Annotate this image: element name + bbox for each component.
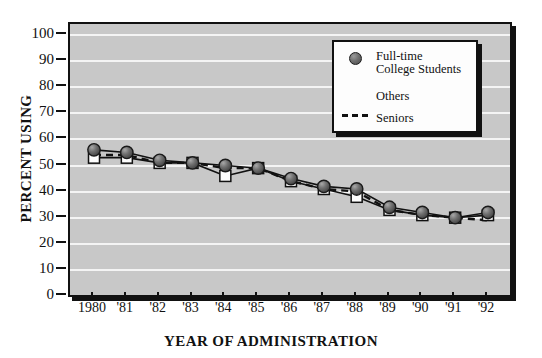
data-point-circle xyxy=(219,159,231,171)
x-tick-label: '92 xyxy=(478,300,495,316)
x-tick-label: '84 xyxy=(215,300,232,316)
y-tick-mark xyxy=(56,58,66,60)
y-tick-label: 40 xyxy=(39,181,54,198)
x-tick-mark xyxy=(321,292,323,300)
y-axis-title: PERCENT USING xyxy=(18,49,35,269)
legend-entry: Seniors xyxy=(334,112,476,125)
x-tick-label: '85 xyxy=(248,300,265,316)
x-tick-label: '91 xyxy=(445,300,462,316)
data-point-circle xyxy=(153,154,165,166)
x-tick-mark xyxy=(452,292,454,300)
x-tick-mark xyxy=(485,292,487,300)
chart-figure: 0102030405060708090100 PERCENT USING 198… xyxy=(0,0,542,358)
y-tick-label: 50 xyxy=(39,155,54,172)
x-tick-mark xyxy=(190,292,192,300)
legend-label: Full-time College Students xyxy=(376,50,461,76)
data-point-circle xyxy=(482,206,494,218)
legend-marker xyxy=(334,50,376,65)
y-tick-mark xyxy=(56,163,66,165)
y-tick-mark xyxy=(56,110,66,112)
y-tick-mark xyxy=(56,267,66,269)
series-markers xyxy=(88,144,494,224)
legend-label: Others xyxy=(376,90,409,103)
x-tick-mark xyxy=(354,292,356,300)
data-point-circle xyxy=(383,201,395,213)
legend-entry: Full-time College Students xyxy=(334,50,476,76)
x-tick-mark xyxy=(288,292,290,300)
data-point-circle xyxy=(449,212,461,224)
cut-off-title-artifact xyxy=(46,0,226,8)
y-tick-label: 0 xyxy=(47,286,55,303)
x-tick-mark xyxy=(124,292,126,300)
y-tick-label: 30 xyxy=(39,207,54,224)
y-tick-label: 70 xyxy=(39,103,54,120)
y-tick-mark xyxy=(56,84,66,86)
x-tick-label: 1980 xyxy=(78,300,106,316)
x-tick-label: '90 xyxy=(412,300,429,316)
y-tick-mark xyxy=(56,215,66,217)
y-tick-mark xyxy=(56,32,66,34)
open-square-icon xyxy=(350,92,361,103)
x-tick-mark xyxy=(91,292,93,300)
legend-marker xyxy=(334,90,376,103)
y-tick-mark xyxy=(56,241,66,243)
x-tick-label: '88 xyxy=(346,300,363,316)
y-tick-label: 90 xyxy=(39,51,54,68)
data-point-circle xyxy=(350,183,362,195)
data-point-circle xyxy=(121,146,133,158)
x-tick-label: '87 xyxy=(314,300,331,316)
x-tick-label: '86 xyxy=(281,300,298,316)
x-tick-mark xyxy=(387,292,389,300)
filled-circle-icon xyxy=(349,52,362,65)
x-tick-label: '81 xyxy=(117,300,134,316)
y-tick-label: 20 xyxy=(39,233,54,250)
x-tick-mark xyxy=(255,292,257,300)
legend-label: Seniors xyxy=(376,112,414,125)
x-axis-title: YEAR OF ADMINISTRATION xyxy=(0,333,542,350)
x-tick-label: '89 xyxy=(379,300,396,316)
data-point-circle xyxy=(318,180,330,192)
x-tick-mark xyxy=(157,292,159,300)
y-tick-label: 10 xyxy=(39,259,54,276)
dashed-line-icon xyxy=(342,114,368,117)
y-tick-label: 80 xyxy=(39,77,54,94)
series-line xyxy=(94,158,488,218)
legend-marker xyxy=(334,112,376,117)
data-point-circle xyxy=(285,172,297,184)
data-point-circle xyxy=(186,157,198,169)
legend: Full-time College StudentsOthersSeniors xyxy=(332,40,478,133)
y-tick-mark xyxy=(56,136,66,138)
y-tick-label: 60 xyxy=(39,129,54,146)
data-point-circle xyxy=(416,206,428,218)
x-tick-label: '83 xyxy=(182,300,199,316)
legend-entry: Others xyxy=(334,90,476,103)
data-point-circle xyxy=(88,144,100,156)
y-tick-mark xyxy=(56,189,66,191)
x-tick-label: '82 xyxy=(149,300,166,316)
y-tick-label: 100 xyxy=(32,25,55,42)
y-tick-mark xyxy=(56,293,66,295)
x-tick-mark xyxy=(419,292,421,300)
data-point-circle xyxy=(252,162,264,174)
x-tick-mark xyxy=(222,292,224,300)
x-axis: 1980'81'82'83'84'85'86'87'88'89'90'91'92 xyxy=(68,300,512,322)
